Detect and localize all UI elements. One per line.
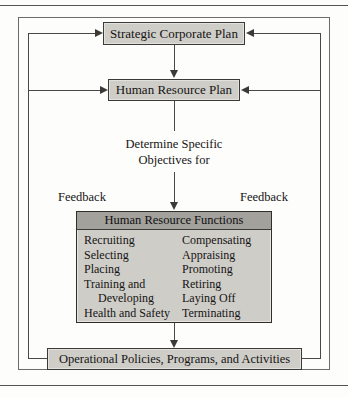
node-operational-policies-label: Operational Policies, Programs, and Acti… — [48, 349, 301, 369]
feedback-right-vertical — [320, 33, 321, 359]
function-item: Retiring — [182, 277, 271, 292]
functions-left-column: Recruiting Selecting Placing Training an… — [77, 233, 180, 321]
function-item: Placing — [84, 262, 180, 277]
feedback-left-to-strategic-arrow — [95, 29, 103, 37]
functions-right-column: Compensating Appraising Promoting Retiri… — [180, 233, 271, 321]
function-item: Training and — [84, 277, 180, 292]
function-item: Terminating — [182, 306, 271, 321]
feedback-label-left: Feedback — [58, 190, 106, 205]
feedback-label-right: Feedback — [240, 190, 288, 205]
flow-strategic-to-hrplan-arrow — [170, 70, 178, 78]
function-item: Developing — [84, 291, 180, 306]
page-rule-bottom — [0, 385, 348, 386]
feedback-left-to-hrplan-line — [28, 90, 100, 91]
feedback-left-to-strategic-line — [28, 33, 95, 34]
feedback-left-vertical — [28, 33, 29, 359]
feedback-left-bottom-connector — [28, 358, 48, 359]
function-item: Appraising — [182, 248, 271, 263]
flow-strategic-to-hrplan-line — [174, 45, 175, 71]
node-operational-policies[interactable]: Operational Policies, Programs, and Acti… — [47, 348, 302, 370]
node-determine-specific-objectives: Determine Specific Objectives for — [104, 136, 244, 168]
feedback-right-to-strategic-line — [254, 33, 321, 34]
node-human-resource-functions[interactable]: Human Resource Functions Recruiting Sele… — [76, 211, 272, 323]
determine-line-1: Determine Specific — [104, 136, 244, 152]
flow-determine-to-functions-arrow — [170, 202, 178, 210]
human-resource-functions-body: Recruiting Selecting Placing Training an… — [77, 230, 271, 321]
feedback-right-to-hrplan-arrow — [241, 86, 249, 94]
flow-determine-to-functions-line — [174, 172, 175, 204]
node-human-resource-plan-label: Human Resource Plan — [109, 80, 239, 100]
determine-line-2: Objectives for — [104, 152, 244, 168]
feedback-left-to-hrplan-arrow — [100, 86, 108, 94]
node-human-resource-plan[interactable]: Human Resource Plan — [108, 79, 240, 101]
flow-functions-to-operational-arrow — [170, 340, 178, 348]
function-item: Compensating — [182, 233, 271, 248]
node-strategic-corporate-plan-label: Strategic Corporate Plan — [104, 23, 244, 44]
feedback-right-to-hrplan-line — [249, 90, 321, 91]
function-item: Health and Safety — [84, 306, 180, 321]
human-resource-functions-header: Human Resource Functions — [77, 212, 271, 230]
function-item: Recruiting — [84, 233, 180, 248]
feedback-right-bottom-connector — [302, 358, 321, 359]
node-strategic-corporate-plan[interactable]: Strategic Corporate Plan — [103, 22, 245, 45]
diagram-canvas: Strategic Corporate Plan Human Resource … — [0, 0, 348, 398]
flow-hrplan-to-determine-line — [174, 101, 175, 131]
page-rule-top — [0, 5, 348, 6]
function-item: Selecting — [84, 248, 180, 263]
feedback-right-to-strategic-arrow — [246, 29, 254, 37]
function-item: Laying Off — [182, 291, 271, 306]
function-item: Promoting — [182, 262, 271, 277]
